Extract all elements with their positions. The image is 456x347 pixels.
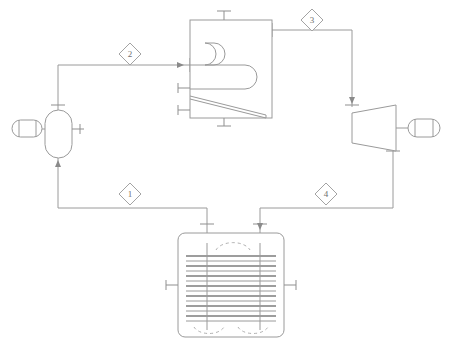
stream-tag-2[interactable]: 2 <box>119 43 141 65</box>
pipe-path-3 <box>272 30 352 107</box>
process-flow-diagram: 1 2 3 4 <box>0 0 456 347</box>
flow-arrow-3 <box>349 97 355 104</box>
stream-tag-1[interactable]: 1 <box>119 183 141 205</box>
flow-arrow-1 <box>55 160 61 167</box>
tag-label: 4 <box>324 189 329 199</box>
motor-body <box>12 120 42 137</box>
flow-arrow-2 <box>177 62 184 68</box>
diagram-canvas: 1 2 3 4 <box>0 0 456 347</box>
generator-body <box>408 119 440 137</box>
flow-arrow-4 <box>257 223 263 230</box>
pump[interactable] <box>45 105 84 158</box>
stream-3-steam-line <box>272 23 359 107</box>
generator[interactable] <box>408 119 440 137</box>
turbine-body <box>352 105 396 151</box>
stream-tag-3[interactable]: 3 <box>301 9 323 31</box>
pipe-path-2 <box>58 65 190 110</box>
tag-label: 3 <box>310 15 315 25</box>
stream-2-feedwater-line <box>58 58 190 110</box>
pump-motor[interactable] <box>12 120 45 137</box>
pump-body <box>45 110 72 158</box>
stream-tag-4[interactable]: 4 <box>315 183 337 205</box>
tag-label: 1 <box>128 189 133 199</box>
boiler-shell <box>190 20 272 118</box>
condenser[interactable] <box>166 233 296 337</box>
tag-label: 2 <box>128 49 133 59</box>
turbine[interactable] <box>352 105 408 151</box>
boiler[interactable] <box>178 11 272 126</box>
